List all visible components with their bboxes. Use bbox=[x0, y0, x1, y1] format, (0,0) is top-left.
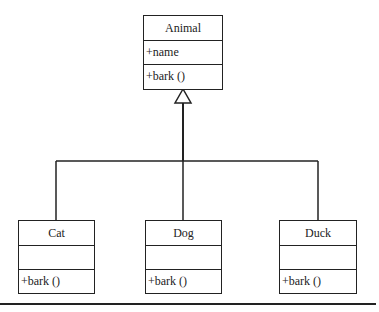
class-method: +bark () bbox=[146, 269, 221, 293]
class-name: Animal bbox=[144, 16, 222, 40]
generalization-arrow-icon bbox=[175, 89, 191, 103]
class-attributes-empty bbox=[146, 245, 221, 269]
class-method: +bark () bbox=[19, 269, 94, 293]
class-name: Cat bbox=[19, 221, 94, 245]
class-dog: Dog +bark () bbox=[145, 220, 222, 294]
class-animal: Animal +name +bark () bbox=[143, 15, 223, 90]
class-duck: Duck +bark () bbox=[279, 220, 357, 294]
class-attributes-empty bbox=[280, 245, 356, 269]
class-method: +bark () bbox=[144, 64, 222, 88]
class-cat: Cat +bark () bbox=[18, 220, 95, 294]
class-attributes-empty bbox=[19, 245, 94, 269]
class-method: +bark () bbox=[280, 269, 356, 293]
class-name: Duck bbox=[280, 221, 356, 245]
class-name: Dog bbox=[146, 221, 221, 245]
class-attribute: +name bbox=[144, 40, 222, 64]
